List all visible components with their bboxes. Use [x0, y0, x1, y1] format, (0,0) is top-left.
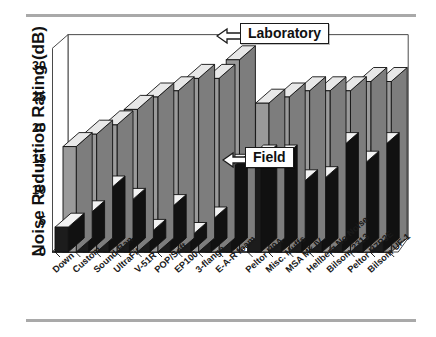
plot-area: [52, 30, 427, 262]
y-axis-tick-10: 10: [24, 184, 46, 197]
bottom-divider-rule: [26, 319, 416, 322]
field-callout-label: Field: [245, 147, 294, 168]
top-divider-rule: [26, 14, 416, 17]
plot-svg: [52, 30, 427, 262]
y-axis-tick-25: 25: [24, 91, 46, 104]
laboratory-callout-label: Laboratory: [240, 23, 329, 44]
chart-figure: Noise Reduction Rating (dB) 051015202530…: [0, 0, 436, 337]
y-axis-tick-0: 0: [24, 246, 46, 259]
y-axis-tick-20: 20: [24, 122, 46, 135]
y-axis-tick-labels: 051015202530: [22, 30, 46, 262]
y-axis-tick-5: 5: [24, 215, 46, 228]
y-axis-tick-30: 30: [24, 60, 46, 73]
y-axis-tick-15: 15: [24, 153, 46, 166]
